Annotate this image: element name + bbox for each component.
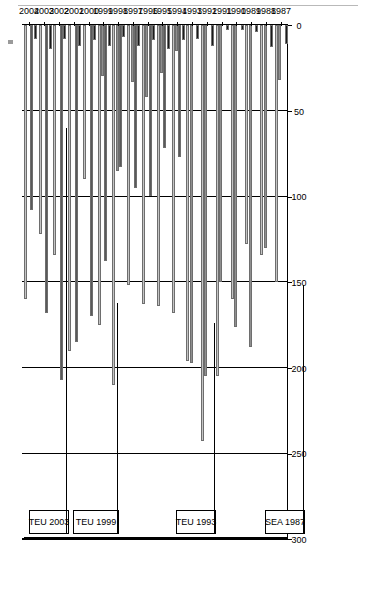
bar-group-2002	[53, 25, 66, 539]
bar-assent-1987	[285, 25, 288, 44]
bar-consultation-2002	[53, 25, 56, 255]
period-column-spine	[24, 537, 288, 538]
year-tick-mark-2004	[29, 22, 30, 26]
year-tick-mark-1992	[207, 22, 208, 26]
bar-assent-1997	[137, 25, 140, 46]
bar-consultation-2003	[39, 25, 42, 234]
value-tick-250: 250	[290, 449, 308, 459]
year-tick-mark-2000	[89, 22, 90, 26]
bar-assent-2004	[34, 25, 37, 39]
value-tick-mark-100	[288, 197, 292, 198]
bar-group-1994	[172, 25, 185, 539]
bar-cooperation-1991	[219, 25, 222, 282]
bar-assent-1995	[167, 25, 170, 49]
plot-area	[22, 26, 288, 540]
bar-cooperation-1993	[190, 25, 193, 363]
year-tick-mark-1994	[177, 22, 178, 26]
period-bracket-teu-1993: TEU 1993	[176, 510, 216, 534]
bar-assent-1989	[255, 25, 258, 32]
year-tick-mark-1990	[236, 22, 237, 26]
year-tick-mark-1997	[133, 22, 134, 26]
bar-consultation-2000	[83, 25, 86, 179]
bar-codecision-2004	[30, 25, 33, 210]
year-tick-mark-2002	[59, 22, 60, 26]
bar-group-1998	[112, 25, 125, 539]
bar-group-1999	[98, 25, 111, 539]
bar-codecision-1999	[104, 25, 107, 261]
rotated-figure-wrapper: ConsultationCooperationCo-decisionAssent…	[0, 0, 330, 556]
bar-group-1987	[275, 25, 288, 539]
period-leader-line	[117, 303, 118, 534]
bar-assent-1988	[270, 25, 273, 47]
bar-codecision-2000	[90, 25, 93, 316]
period-bracket-sea-1987: SEA 1987	[265, 510, 305, 534]
period-label-text: SEA 1987	[265, 517, 305, 527]
year-tick-mark-1999	[103, 22, 104, 26]
bar-group-2004	[24, 25, 37, 539]
bar-group-1991	[216, 25, 229, 539]
bar-group-2000	[83, 25, 96, 539]
bar-assent-1990	[241, 25, 244, 30]
year-tick-mark-1998	[118, 22, 119, 26]
bar-cooperation-1988	[264, 25, 267, 248]
year-tick-mark-1995	[162, 22, 163, 26]
year-tick-mark-2001	[74, 22, 75, 26]
bar-codecision-1997	[134, 25, 137, 188]
bar-group-1997	[127, 25, 140, 539]
period-label-text: TEU 2003	[28, 517, 69, 527]
bar-group-1993	[186, 25, 199, 539]
year-tick-mark-1989	[251, 22, 252, 26]
bar-group-1995	[157, 25, 170, 539]
bar-codecision-2002	[60, 25, 63, 380]
bar-group-1992	[201, 25, 214, 539]
year-tick-mark-1987	[281, 22, 282, 26]
year-tick-mark-2003	[44, 22, 45, 26]
bar-group-1989	[245, 25, 258, 539]
bar-group-1996	[142, 25, 155, 539]
year-tick-mark-1991	[222, 22, 223, 26]
bar-codecision-1994	[178, 25, 181, 157]
period-leader-line	[66, 128, 67, 534]
year-label-2004: 2004	[16, 5, 42, 17]
period-bracket-teu-2003: TEU 2003	[29, 510, 69, 534]
bar-assent-1999	[108, 25, 111, 46]
value-tick-200: 200	[290, 364, 308, 374]
bar-assent-2001	[78, 25, 81, 46]
year-tick-mark-1988	[266, 22, 267, 26]
year-tick-mark-1996	[148, 22, 149, 26]
bar-cooperation-1990	[234, 25, 237, 327]
value-tick-mark-0	[288, 26, 292, 27]
period-label-text: TEU 1993	[176, 517, 217, 527]
bar-codecision-2001	[75, 25, 78, 342]
bar-assent-1992	[211, 25, 214, 46]
bar-cooperation-1992	[204, 25, 207, 376]
value-tick-0: 0	[290, 21, 308, 31]
bar-assent-1993	[196, 25, 199, 39]
bar-cooperation-1989	[249, 25, 252, 347]
bar-assent-1998	[122, 25, 125, 37]
period-leader-line	[214, 323, 215, 534]
value-tick-150: 150	[290, 278, 308, 288]
value-tick-50: 50	[290, 107, 308, 117]
bar-assent-2000	[93, 25, 96, 40]
bar-consultation-2001	[68, 25, 71, 351]
bar-group-2003	[39, 25, 52, 539]
bar-assent-1991	[226, 25, 229, 30]
bar-assent-2003	[49, 25, 52, 49]
value-tick-300: 300	[290, 535, 308, 545]
period-bracket-teu-1999: TEU 1999	[73, 510, 119, 534]
value-tick-mark-300	[288, 540, 292, 541]
bar-assent-1994	[182, 25, 185, 40]
bar-cooperation-1987	[278, 25, 281, 80]
period-label-text: TEU 1999	[76, 517, 117, 527]
year-tick-mark-1993	[192, 22, 193, 26]
value-tick-100: 100	[290, 192, 308, 202]
bar-chart-figure: ConsultationCooperationCo-decisionAssent…	[0, 0, 330, 556]
bar-codecision-2003	[45, 25, 48, 313]
value-tick-mark-50	[288, 111, 292, 112]
figure-page: ConsultationCooperationCo-decisionAssent…	[0, 0, 373, 596]
value-tick-mark-200	[288, 368, 292, 369]
bar-group-2001	[68, 25, 81, 539]
bar-codecision-1996	[149, 25, 152, 196]
bar-assent-2002	[63, 25, 66, 39]
